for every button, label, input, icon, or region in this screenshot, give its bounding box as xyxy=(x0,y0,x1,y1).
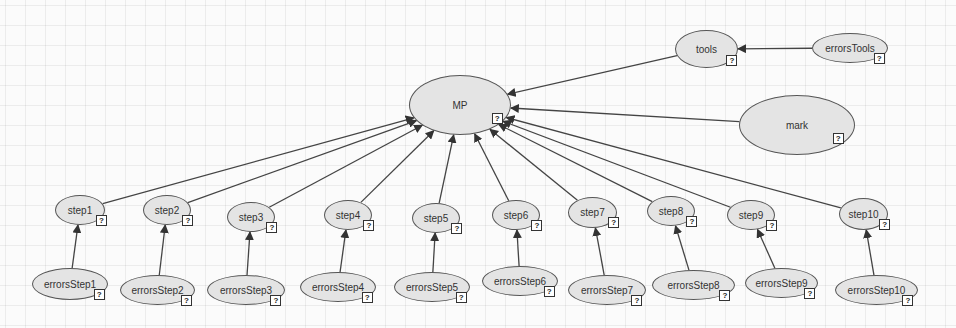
node-label: step4 xyxy=(336,210,360,221)
node-label: errorsStep10 xyxy=(848,285,906,296)
node-step7[interactable]: step7 ? xyxy=(568,197,617,228)
edge-errorsstep5-to-step5[interactable] xyxy=(433,233,435,272)
edge-errorsstep1-to-step1[interactable] xyxy=(72,225,78,268)
node-mark[interactable]: mark ? xyxy=(739,95,855,155)
help-badge-icon[interactable]: ? xyxy=(902,295,913,306)
node-errorsstep7[interactable]: errorsStep7 ? xyxy=(568,275,646,305)
help-badge-icon[interactable]: ? xyxy=(456,292,467,303)
node-label: step10 xyxy=(848,209,878,220)
help-badge-icon[interactable]: ? xyxy=(833,133,844,144)
node-step2[interactable]: step2 ? xyxy=(143,195,191,225)
node-label: step5 xyxy=(424,213,448,224)
edge-errorsstep2-to-step2[interactable] xyxy=(159,225,165,275)
edge-step6-to-mp[interactable] xyxy=(475,134,509,201)
edge-step1-to-mp[interactable] xyxy=(103,118,414,204)
node-label: step6 xyxy=(504,210,528,221)
node-step3[interactable]: step3 ? xyxy=(227,202,275,232)
node-mp[interactable]: MP ? xyxy=(409,75,511,135)
help-badge-icon[interactable]: ? xyxy=(492,113,503,124)
help-badge-icon[interactable]: ? xyxy=(363,220,374,231)
node-label: step9 xyxy=(739,210,763,221)
help-badge-icon[interactable]: ? xyxy=(544,286,555,297)
help-badge-icon[interactable]: ? xyxy=(874,53,885,64)
help-badge-icon[interactable]: ? xyxy=(726,55,737,66)
node-errorsstep10[interactable]: errorsStep10 ? xyxy=(835,275,918,305)
node-label: errorsStep4 xyxy=(312,282,364,293)
node-label: step7 xyxy=(580,207,604,218)
edge-step4-to-mp[interactable] xyxy=(361,131,434,203)
node-errorsstep3[interactable]: errorsStep3 ? xyxy=(207,275,285,305)
node-errorsstep1[interactable]: errorsStep1 ? xyxy=(32,268,108,300)
edge-mark-to-mp[interactable] xyxy=(511,108,740,122)
node-label: step8 xyxy=(659,206,683,217)
node-label: errorsStep2 xyxy=(131,285,183,296)
node-label: errorsTools xyxy=(825,43,874,54)
node-label: errorsStep8 xyxy=(667,280,719,291)
graph-canvas[interactable]: MP ? tools ? errorsTools ? mark ? step1 … xyxy=(0,0,956,328)
edge-errorsstep6-to-step6[interactable] xyxy=(517,230,519,266)
node-errorstools[interactable]: errorsTools ? xyxy=(812,33,888,63)
edge-errorsstep8-to-step8[interactable] xyxy=(675,226,688,270)
edge-step9-to-mp[interactable] xyxy=(503,121,731,207)
help-badge-icon[interactable]: ? xyxy=(451,223,462,234)
node-errorsstep2[interactable]: errorsStep2 ? xyxy=(120,275,195,305)
node-step4[interactable]: step4 ? xyxy=(324,200,372,230)
node-label: MP xyxy=(453,100,468,111)
node-label: errorsStep5 xyxy=(406,282,458,293)
edge-errorstools-to-tools[interactable] xyxy=(738,48,812,49)
node-label: step1 xyxy=(68,205,92,216)
edge-errorsstep7-to-step7[interactable] xyxy=(595,228,604,275)
help-badge-icon[interactable]: ? xyxy=(96,215,107,226)
help-badge-icon[interactable]: ? xyxy=(766,220,777,231)
node-label: mark xyxy=(786,120,808,131)
node-step5[interactable]: step5 ? xyxy=(412,203,460,233)
edge-step3-to-mp[interactable] xyxy=(269,125,422,207)
edge-errorsstep4-to-step4[interactable] xyxy=(340,230,346,272)
node-step9[interactable]: step9 ? xyxy=(727,200,775,230)
node-errorsstep6[interactable]: errorsStep6 ? xyxy=(482,266,558,296)
help-badge-icon[interactable]: ? xyxy=(94,289,105,300)
help-badge-icon[interactable]: ? xyxy=(182,215,193,226)
node-errorsstep5[interactable]: errorsStep5 ? xyxy=(394,272,470,302)
help-badge-icon[interactable]: ? xyxy=(362,292,373,303)
node-tools[interactable]: tools ? xyxy=(675,30,738,68)
node-errorsstep8[interactable]: errorsStep8 ? xyxy=(652,270,735,300)
node-label: errorsStep7 xyxy=(581,285,633,296)
help-badge-icon[interactable]: ? xyxy=(270,295,281,306)
help-badge-icon[interactable]: ? xyxy=(608,217,619,228)
edge-errorsstep9-to-step9[interactable] xyxy=(757,229,774,268)
help-badge-icon[interactable]: ? xyxy=(686,216,697,227)
edge-step5-to-mp[interactable] xyxy=(439,135,454,203)
help-badge-icon[interactable]: ? xyxy=(266,222,277,233)
help-badge-icon[interactable]: ? xyxy=(631,295,642,306)
edge-errorsstep10-to-step10[interactable] xyxy=(866,230,874,275)
node-step1[interactable]: step1 ? xyxy=(55,195,105,225)
node-step6[interactable]: step6 ? xyxy=(492,200,540,230)
node-label: step2 xyxy=(155,205,179,216)
edge-tools-to-mp[interactable] xyxy=(508,56,677,94)
node-label: errorsStep6 xyxy=(494,276,546,287)
node-errorsstep9[interactable]: errorsStep9 ? xyxy=(745,268,818,298)
node-label: errorsStep1 xyxy=(44,279,96,290)
help-badge-icon[interactable]: ? xyxy=(181,295,192,306)
node-step10[interactable]: step10 ? xyxy=(839,198,888,230)
help-badge-icon[interactable]: ? xyxy=(719,290,730,301)
help-badge-icon[interactable]: ? xyxy=(879,219,890,230)
help-badge-icon[interactable]: ? xyxy=(804,288,815,299)
node-label: tools xyxy=(696,44,717,55)
edge-errorsstep3-to-step3[interactable] xyxy=(247,232,250,275)
node-label: errorsStep3 xyxy=(220,285,272,296)
node-step8[interactable]: step8 ? xyxy=(647,196,695,226)
help-badge-icon[interactable]: ? xyxy=(531,220,542,231)
node-label: errorsStep9 xyxy=(755,278,807,289)
node-label: step3 xyxy=(239,212,263,223)
node-errorsstep4[interactable]: errorsStep4 ? xyxy=(300,272,376,302)
